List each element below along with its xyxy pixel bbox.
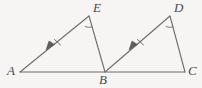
angle-arc-at-E <box>85 27 93 28</box>
parallel-arrowhead-on-BD <box>129 41 138 50</box>
vertex-label-E: E <box>93 1 101 14</box>
vertex-label-C: C <box>188 64 197 77</box>
vertex-label-B: B <box>99 73 107 86</box>
angle-arc-at-D <box>166 27 174 28</box>
vertex-label-A: A <box>7 64 15 77</box>
parallel-arrowhead-on-AE <box>46 41 55 50</box>
segment-BD <box>105 16 170 72</box>
segment-DC <box>170 16 185 72</box>
vertex-label-D: D <box>174 1 183 14</box>
geometry-figure: A B C E D <box>0 0 202 88</box>
segment-EB <box>89 16 105 72</box>
segment-AE <box>20 16 89 72</box>
